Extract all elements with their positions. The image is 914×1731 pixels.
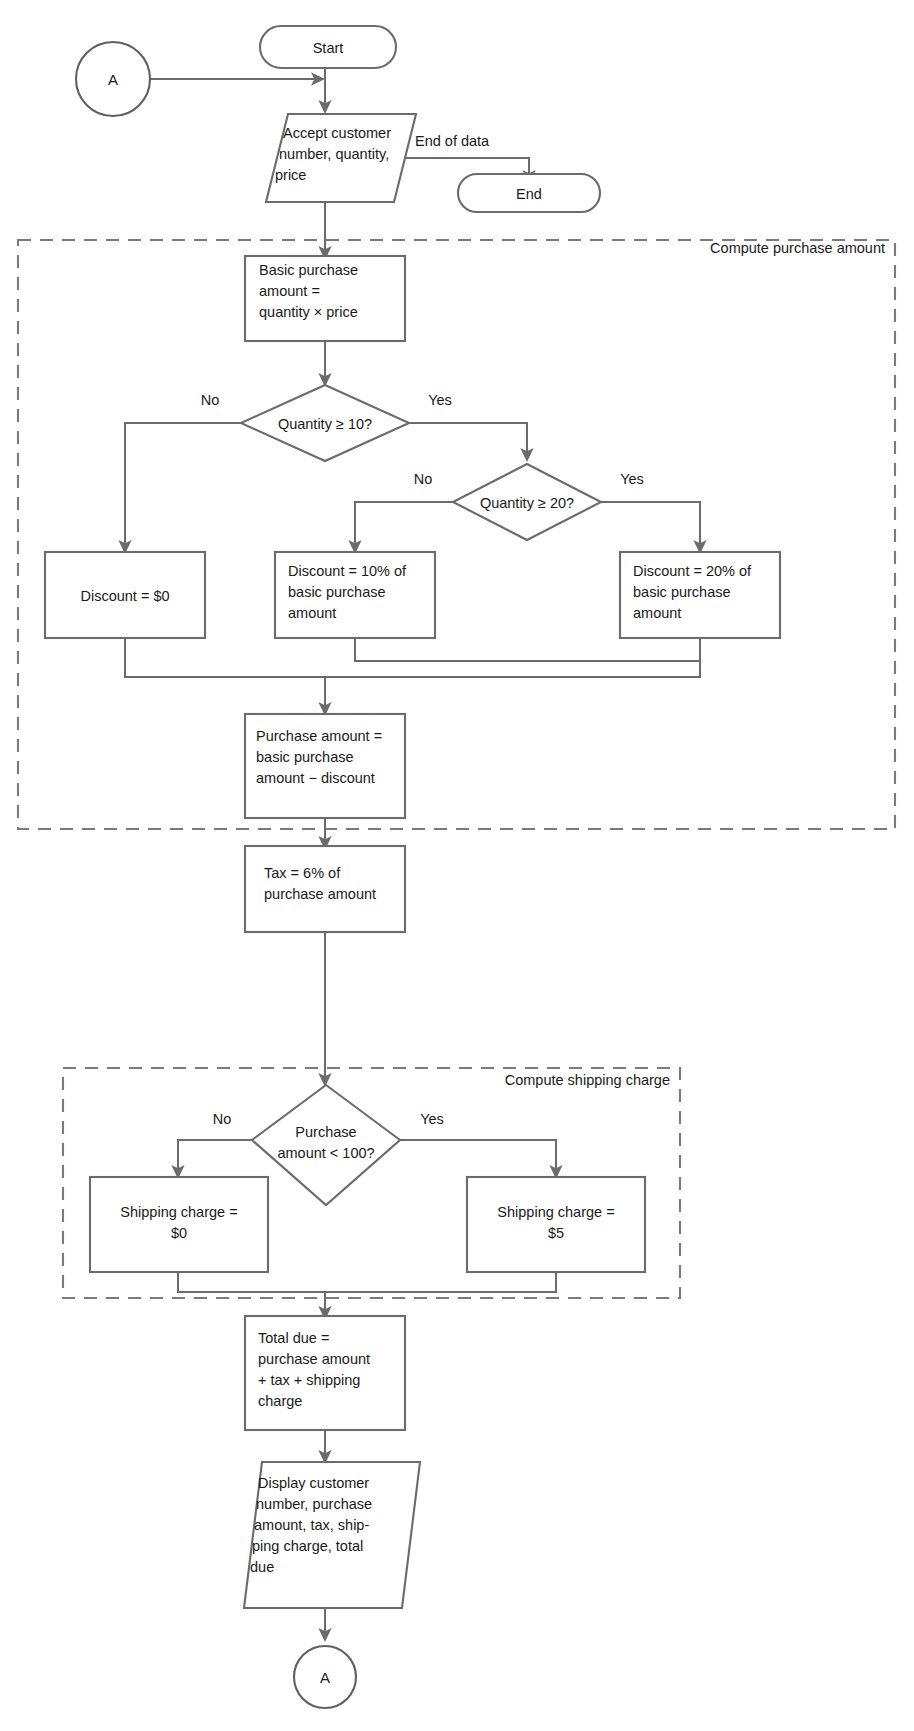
node-purchase-amount[interactable]: Purchase amount = basic purchase amount … xyxy=(245,714,405,818)
edge-label-end-of-data: End of data xyxy=(415,133,490,149)
edge-label-qty10-no: No xyxy=(201,392,220,408)
node-start[interactable]: Start xyxy=(260,26,396,68)
connector-a-bottom[interactable]: A xyxy=(294,1646,356,1708)
edge-label-qty20-no: No xyxy=(414,471,433,487)
edge-label-qty20-yes: Yes xyxy=(620,471,644,487)
edge-discount-merge-inner xyxy=(355,638,700,661)
node-shipping-five-line-1: Shipping charge = xyxy=(497,1204,614,1220)
node-discount-ten[interactable]: Discount = 10% of basic purchase amount xyxy=(275,552,435,638)
node-shipping-five[interactable]: Shipping charge = $5 xyxy=(467,1177,645,1272)
edge-label-qty10-yes: Yes xyxy=(428,392,452,408)
region-compute-purchase-label: Compute purchase amount xyxy=(710,240,885,256)
node-decision-quantity-20-label: Quantity ≥ 20? xyxy=(480,495,574,511)
node-discount-twenty-line-1: Discount = 20% of xyxy=(633,563,752,579)
node-purchase-amount-line-3: amount − discount xyxy=(256,770,375,786)
edge-label-purchase100-yes: Yes xyxy=(420,1111,444,1127)
edge-decision100-no xyxy=(178,1140,252,1177)
node-end[interactable]: End xyxy=(458,174,600,212)
region-compute-shipping-label: Compute shipping charge xyxy=(505,1072,670,1088)
edge-decision10-yes xyxy=(409,423,527,460)
node-purchase-amount-line-2: basic purchase xyxy=(256,749,354,765)
node-accept-line-1: Accept customer xyxy=(283,125,391,141)
node-decision-quantity-10-label: Quantity ≥ 10? xyxy=(278,416,372,432)
node-tax-line-2: purchase amount xyxy=(264,886,376,902)
node-purchase-amount-line-1: Purchase amount = xyxy=(256,728,382,744)
flowchart-page: Compute purchase amount Compute shipping… xyxy=(0,0,914,1731)
edge-decision20-yes xyxy=(601,502,700,552)
edge-discount-merge-outer xyxy=(125,638,700,677)
region-compute-purchase-amount: Compute purchase amount xyxy=(18,240,895,829)
flow-lines xyxy=(125,68,700,1640)
node-basic-purchase-line-2: amount = xyxy=(259,283,320,299)
node-shipping-zero-line-2: $0 xyxy=(171,1225,187,1241)
node-total-due[interactable]: Total due = purchase amount + tax + ship… xyxy=(245,1316,405,1430)
node-decision-purchase-100-line-2: amount < 100? xyxy=(277,1145,374,1161)
node-shipping-zero-line-1: Shipping charge = xyxy=(120,1204,237,1220)
node-display-output[interactable]: Display customer number, purchase amount… xyxy=(244,1462,420,1608)
connector-a-top-label: A xyxy=(108,71,118,88)
node-total-due-line-1: Total due = xyxy=(258,1330,329,1346)
node-tax-line-1: Tax = 6% of xyxy=(264,865,341,881)
edge-decision100-yes xyxy=(400,1140,556,1177)
edge-shipping-merge xyxy=(178,1272,556,1292)
node-display-line-3: amount, tax, ship- xyxy=(254,1517,369,1533)
node-discount-ten-line-1: Discount = 10% of xyxy=(288,563,407,579)
node-display-line-2: number, purchase xyxy=(256,1496,372,1512)
node-discount-ten-line-3: amount xyxy=(288,605,336,621)
edge-decision10-no xyxy=(125,423,241,552)
connector-a-top[interactable]: A xyxy=(76,42,150,116)
node-total-due-line-2: purchase amount xyxy=(258,1351,370,1367)
connector-a-bottom-label: A xyxy=(320,1669,330,1686)
edge-label-purchase100-no: No xyxy=(213,1111,232,1127)
node-end-label: End xyxy=(516,186,542,202)
node-display-line-4: ping charge, total xyxy=(252,1538,363,1554)
node-total-due-line-4: charge xyxy=(258,1393,302,1409)
node-accept-input[interactable]: Accept customer number, quantity, price xyxy=(266,114,416,202)
node-discount-twenty-line-3: amount xyxy=(633,605,681,621)
node-tax[interactable]: Tax = 6% of purchase amount xyxy=(245,846,405,932)
node-shipping-five-line-2: $5 xyxy=(548,1225,564,1241)
node-decision-purchase-100-line-1: Purchase xyxy=(295,1124,356,1140)
edge-decision20-no xyxy=(355,502,453,552)
node-display-line-5: due xyxy=(250,1559,274,1575)
node-start-label: Start xyxy=(313,40,344,56)
node-discount-ten-line-2: basic purchase xyxy=(288,584,386,600)
node-discount-zero-label: Discount = $0 xyxy=(80,588,169,604)
flowchart-canvas: Compute purchase amount Compute shipping… xyxy=(0,0,914,1731)
node-basic-purchase-amount[interactable]: Basic purchase amount = quantity × price xyxy=(245,256,405,341)
node-total-due-line-3: + tax + shipping xyxy=(258,1372,360,1388)
node-display-line-1: Display customer xyxy=(258,1475,369,1491)
node-accept-line-2: number, quantity, xyxy=(279,146,389,162)
node-basic-purchase-line-3: quantity × price xyxy=(259,304,358,320)
node-discount-zero[interactable]: Discount = $0 xyxy=(45,552,205,638)
node-accept-line-3: price xyxy=(275,167,306,183)
node-discount-twenty-line-2: basic purchase xyxy=(633,584,731,600)
node-discount-twenty[interactable]: Discount = 20% of basic purchase amount xyxy=(620,552,780,638)
node-basic-purchase-line-1: Basic purchase xyxy=(259,262,358,278)
node-shipping-zero[interactable]: Shipping charge = $0 xyxy=(90,1177,268,1272)
